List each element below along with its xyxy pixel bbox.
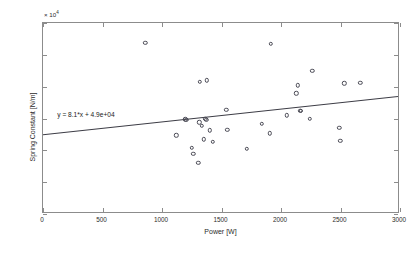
data-point	[285, 113, 289, 117]
y-tick-mark	[43, 119, 47, 120]
data-point	[198, 80, 202, 84]
x-tick-label: 3000	[392, 216, 406, 223]
x-tick-mark	[43, 208, 44, 212]
y-tick-mark	[394, 150, 398, 151]
x-tick-label: 0	[40, 216, 44, 223]
data-point	[205, 78, 209, 82]
y-axis-title: Spring Constant [N/m]	[29, 92, 36, 161]
x-tick-mark	[341, 23, 342, 27]
data-point	[342, 81, 346, 85]
data-point	[225, 127, 229, 131]
y-tick-mark	[43, 214, 47, 215]
data-point	[200, 123, 204, 127]
x-axis-title: Power [W]	[42, 228, 399, 235]
x-tick-label: 500	[96, 216, 107, 223]
data-point	[191, 151, 195, 155]
data-point	[143, 41, 147, 45]
data-point	[207, 128, 211, 132]
data-point	[204, 117, 208, 121]
y-tick-mark	[43, 55, 47, 56]
plot-area: y = 8.1*x + 4.9e+04	[42, 22, 399, 213]
y-tick-mark	[394, 55, 398, 56]
y-tick-mark	[43, 87, 47, 88]
data-point	[268, 42, 272, 46]
fit-equation-annotation: y = 8.1*x + 4.9e+04	[57, 111, 114, 118]
x-tick-mark	[43, 23, 44, 27]
data-point	[337, 126, 341, 130]
data-point	[307, 116, 311, 120]
data-point	[174, 133, 178, 137]
x-tick-mark	[400, 208, 401, 212]
y-axis-exponent-mantissa: × 10	[44, 11, 56, 18]
x-tick-label: 2500	[332, 216, 346, 223]
data-point	[184, 118, 188, 122]
data-point	[267, 131, 271, 135]
data-point	[299, 108, 303, 112]
y-tick-mark	[394, 23, 398, 24]
y-tick-mark	[394, 182, 398, 183]
data-point	[295, 83, 299, 87]
x-tick-mark	[341, 208, 342, 212]
figure-canvas: × 104 Spring Constant [N/m] Power [W] y …	[0, 0, 419, 253]
data-point	[202, 137, 206, 141]
data-point	[211, 139, 215, 143]
data-point	[260, 122, 264, 126]
data-point	[224, 108, 228, 112]
data-point	[196, 161, 200, 165]
data-point	[310, 69, 314, 73]
x-tick-mark	[103, 208, 104, 212]
data-point	[358, 81, 362, 85]
x-tick-label: 1500	[213, 216, 227, 223]
x-tick-label: 2000	[273, 216, 287, 223]
y-tick-mark	[394, 87, 398, 88]
y-tick-mark	[394, 214, 398, 215]
y-tick-mark	[394, 119, 398, 120]
y-tick-mark	[43, 150, 47, 151]
y-axis-exponent-label: × 104	[44, 10, 59, 18]
y-axis-exponent-power: 4	[56, 10, 59, 15]
x-tick-mark	[281, 208, 282, 212]
data-point	[294, 91, 298, 95]
data-point	[338, 139, 342, 143]
x-tick-mark	[103, 23, 104, 27]
x-tick-label: 1000	[154, 216, 168, 223]
data-point	[245, 147, 249, 151]
data-point	[190, 146, 194, 150]
y-tick-mark	[43, 182, 47, 183]
x-tick-mark	[162, 23, 163, 27]
x-tick-mark	[162, 208, 163, 212]
x-tick-mark	[400, 23, 401, 27]
x-tick-mark	[222, 208, 223, 212]
x-tick-mark	[281, 23, 282, 27]
x-tick-mark	[222, 23, 223, 27]
